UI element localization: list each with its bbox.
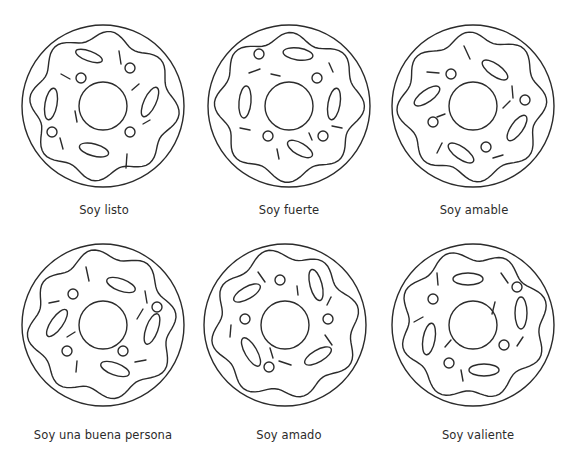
label-valiente: Soy valiente: [442, 428, 514, 442]
round-sprinkle: [446, 69, 456, 79]
round-sprinkle: [62, 346, 72, 356]
line-sprinkle: [240, 128, 250, 130]
round-sprinkle: [47, 127, 57, 137]
donut-hole: [261, 301, 309, 349]
donut-drawing: [389, 241, 557, 409]
donut-drawing: [389, 22, 557, 190]
line-sprinkle: [258, 272, 265, 282]
line-sprinkle: [461, 370, 463, 381]
round-sprinkle: [520, 95, 530, 105]
round-sprinkle: [118, 346, 128, 356]
oval-sprinkle: [43, 306, 71, 339]
label-amado: Soy amado: [256, 428, 321, 442]
line-sprinkle: [464, 46, 470, 59]
oval-sprinkle: [503, 112, 530, 143]
oval-sprinkle: [138, 85, 162, 119]
donut-hole: [79, 301, 127, 349]
round-sprinkle: [254, 49, 264, 59]
line-sprinkle: [119, 51, 121, 64]
oval-sprinkle: [42, 87, 59, 121]
round-sprinkle: [312, 73, 322, 83]
line-sprinkle: [143, 120, 150, 124]
line-sprinkle: [135, 360, 146, 362]
oval-sprinkle: [325, 87, 342, 121]
line-sprinkle: [297, 286, 298, 295]
donut-hole: [449, 82, 497, 130]
line-sprinkle: [60, 138, 63, 149]
line-sprinkle: [49, 301, 59, 303]
line-sprinkle: [75, 111, 77, 122]
line-sprinkle: [230, 325, 231, 337]
round-sprinkle: [428, 117, 438, 127]
line-sprinkle: [414, 317, 423, 322]
label-amable: Soy amable: [440, 203, 509, 217]
donut-drawing: [19, 241, 187, 409]
line-sprinkle: [445, 340, 451, 347]
line-sprinkle: [517, 337, 523, 346]
line-sprinkle: [279, 361, 291, 365]
round-sprinkle: [264, 362, 274, 372]
round-sprinkle: [444, 358, 454, 368]
line-sprinkle: [329, 63, 333, 72]
oval-sprinkle: [306, 268, 326, 302]
round-sprinkle: [240, 314, 250, 324]
line-sprinkle: [512, 86, 513, 98]
oval-sprinkle: [453, 273, 483, 285]
donut-drawing: [205, 22, 373, 190]
line-sprinkle: [137, 309, 143, 319]
oval-sprinkle: [78, 140, 110, 159]
round-sprinkle: [76, 73, 86, 83]
donut-icing-outline: [212, 250, 359, 396]
line-sprinkle: [332, 126, 342, 128]
round-sprinkle: [125, 127, 135, 137]
line-sprinkle: [145, 291, 147, 303]
line-sprinkle: [86, 267, 89, 281]
line-sprinkle: [327, 297, 331, 305]
donut-buena-persona: [19, 241, 187, 409]
round-sprinkle: [275, 275, 285, 285]
round-sprinkle: [499, 340, 509, 350]
donut-drawing: [19, 22, 187, 190]
oval-sprinkle: [105, 274, 137, 296]
oval-sprinkle: [420, 322, 437, 356]
round-sprinkle: [481, 142, 491, 152]
round-sprinkle: [512, 282, 522, 292]
label-listo: Soy listo: [79, 203, 129, 217]
coloring-sheet: Soy listo Soy fuerte Soy amable Soy una …: [0, 0, 578, 465]
line-sprinkle: [277, 149, 279, 159]
line-sprinkle: [76, 361, 77, 372]
line-sprinkle: [249, 69, 260, 73]
donut-fuerte: [205, 22, 373, 190]
round-sprinkle: [125, 63, 135, 73]
donut-hole: [449, 301, 497, 349]
oval-sprinkle: [141, 312, 163, 346]
line-sprinkle: [309, 133, 312, 140]
donut-hole: [265, 82, 313, 130]
line-sprinkle: [437, 143, 442, 153]
line-sprinkle: [427, 72, 439, 73]
donut-icing-outline: [30, 32, 179, 181]
oval-sprinkle: [445, 139, 476, 166]
round-sprinkle: [152, 302, 162, 312]
oval-sprinkle: [285, 137, 315, 161]
line-sprinkle: [325, 335, 332, 345]
donut-amable: [389, 22, 557, 190]
donut-outer-ring: [204, 244, 366, 406]
oval-sprinkle: [231, 280, 263, 305]
line-sprinkle: [493, 155, 503, 158]
oval-sprinkle: [469, 364, 499, 376]
round-sprinkle: [318, 131, 328, 141]
label-buena-persona: Soy una buena persona: [34, 428, 172, 442]
round-sprinkle: [263, 131, 273, 141]
oval-sprinkle: [411, 82, 442, 109]
line-sprinkle: [437, 114, 445, 117]
donut-icing-outline: [397, 32, 547, 182]
donut-amado: [201, 241, 369, 409]
donut-hole: [79, 82, 127, 130]
round-sprinkle: [323, 314, 333, 324]
line-sprinkle: [437, 273, 438, 285]
donut-outer-ring: [392, 244, 554, 406]
round-sprinkle: [428, 294, 438, 304]
oval-sprinkle: [74, 47, 104, 66]
donut-outer-ring: [22, 25, 184, 187]
